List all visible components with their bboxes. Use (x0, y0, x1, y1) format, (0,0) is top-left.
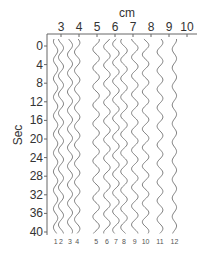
axes (47, 34, 197, 235)
trace-label: 6 (105, 238, 109, 245)
trace-1 (53, 39, 57, 233)
y-tick-label: 36 (30, 206, 44, 220)
trace-5 (93, 39, 99, 233)
trace-4 (75, 39, 80, 233)
x-tick-label: 5 (94, 20, 101, 34)
trace-10 (142, 39, 148, 233)
x-tick-label: 3 (58, 20, 65, 34)
trace-label: 2 (59, 238, 63, 245)
trace-label: 12 (171, 238, 179, 245)
y-tick-label: 40 (30, 225, 44, 239)
y-tick-label: 24 (30, 151, 44, 165)
trace-label: 11 (156, 238, 163, 245)
x-tick-label: 7 (130, 20, 137, 34)
trace-label: 10 (142, 238, 150, 245)
trace-2 (59, 39, 64, 233)
y-tick-label: 16 (30, 113, 44, 127)
y-tick-label: 4 (36, 58, 43, 72)
trace-12 (172, 39, 176, 233)
chart: cm Sec 345678910 0481216202428323640 123… (0, 0, 214, 255)
y-tick-label: 12 (30, 95, 44, 109)
y-tick-label: 0 (36, 39, 43, 53)
trace-8 (121, 39, 127, 233)
trace-label: 7 (114, 238, 118, 245)
y-tick-label: 20 (30, 132, 44, 146)
trace-label: 4 (75, 238, 79, 245)
x-tick-label: 4 (76, 20, 83, 34)
trace-label: 8 (122, 238, 126, 245)
trace-label: 3 (68, 238, 72, 245)
trace-labels: 123456789101112 (54, 238, 179, 245)
trace-label: 9 (133, 238, 137, 245)
trace-label: 1 (54, 238, 58, 245)
trace-label: 5 (94, 238, 98, 245)
trace-6 (104, 39, 110, 233)
trace-7 (113, 39, 119, 233)
trace-11 (157, 39, 163, 233)
x-tick-label: 6 (112, 20, 119, 34)
x-tick-label: 9 (166, 20, 173, 34)
traces (53, 39, 176, 233)
x-tick-label: 10 (180, 20, 194, 34)
y-axis-title: Sec (11, 125, 25, 146)
trace-9 (132, 39, 138, 233)
y-tick-label: 8 (36, 76, 43, 90)
y-tick-label: 28 (30, 169, 44, 183)
y-tick-label: 32 (30, 188, 44, 202)
trace-3 (67, 39, 72, 233)
y-ticks: 0481216202428323640 (30, 39, 47, 239)
x-axis-title: cm (119, 6, 135, 20)
x-tick-label: 8 (148, 20, 155, 34)
